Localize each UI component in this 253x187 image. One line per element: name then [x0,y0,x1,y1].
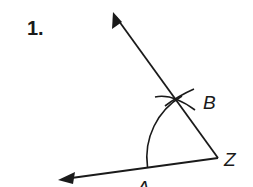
arrowhead-icon [58,172,75,184]
label-a: A [136,177,150,187]
problem-number: 1. [27,17,44,39]
arrowhead-icon [112,12,122,29]
angle-construction-diagram: 1. B Z A [0,0,253,187]
ray-zb [112,12,218,158]
label-b: B [203,92,216,113]
construction-arc [147,96,182,167]
label-z: Z [223,149,237,170]
